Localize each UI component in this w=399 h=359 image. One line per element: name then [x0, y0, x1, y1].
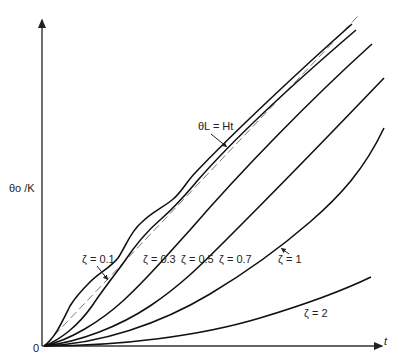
zeta-0.3-label: ζ = 0.3: [143, 253, 176, 265]
zeta-2-label: ζ = 2: [304, 307, 328, 319]
curve-zeta-0.7: [44, 78, 384, 346]
curve-zeta-1: [44, 128, 384, 346]
curve-zeta-0.3: [44, 30, 356, 346]
zeta-0.1-label: ζ = 0.1: [82, 253, 115, 265]
x-axis-label: t: [384, 335, 388, 347]
zeta-0.5-label: ζ = 0.5: [181, 253, 214, 265]
origin-label: 0: [33, 342, 39, 354]
theta-l-reference-line: [46, 16, 358, 344]
curve-zeta-0.5: [44, 44, 372, 346]
theta-l-label: θL = Ht: [198, 120, 233, 132]
theta-l-leader: [211, 134, 227, 147]
y-axis-label: θo /K: [9, 182, 35, 194]
response-chart: θo /K t 0 θL = Ht ζ = 0.1 ζ = 0.3 ζ = 0.…: [0, 0, 399, 359]
zeta-1-label: ζ = 1: [278, 253, 302, 265]
zeta-0.7-label: ζ = 0.7: [219, 253, 252, 265]
